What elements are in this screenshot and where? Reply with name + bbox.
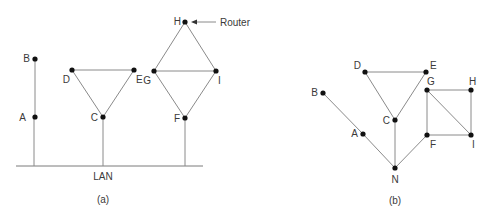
node-label-b-g: G <box>427 76 435 87</box>
node-label-a-g: G <box>143 75 151 86</box>
node-b-a <box>360 131 365 136</box>
node-a-i <box>213 68 218 73</box>
node-label-b-i: I <box>472 139 475 150</box>
panel-b: (b) ABCDEFGHIN <box>311 60 476 206</box>
edge-a-c-e <box>103 70 134 117</box>
edge-a-c-d <box>72 70 103 117</box>
node-b-b <box>320 90 325 95</box>
node-a-c <box>100 114 105 119</box>
node-label-a-b: B <box>23 53 30 64</box>
node-b-d <box>362 69 367 74</box>
node-label-b-d: D <box>354 60 361 71</box>
node-label-b-c: C <box>383 115 390 126</box>
node-label-a-d: D <box>63 74 70 85</box>
node-b-e <box>423 69 428 74</box>
lan-label: LAN <box>93 171 112 182</box>
node-label-b-n: N <box>391 174 398 185</box>
node-label-a-e: E <box>136 74 143 85</box>
panel-a: Router LAN (a) ABCDEFGHI <box>16 16 251 205</box>
node-a-b <box>32 56 37 61</box>
node-a-a <box>32 114 37 119</box>
node-b-f <box>424 132 429 137</box>
edge-b-a-n <box>363 134 395 168</box>
node-label-a-f: F <box>174 113 180 124</box>
node-label-b-e: E <box>430 60 437 71</box>
edge-a-f-g <box>154 71 185 118</box>
router-label: Router <box>220 17 251 28</box>
node-label-b-b: B <box>311 87 318 98</box>
edge-a-f-i <box>185 71 216 118</box>
node-label-b-a: A <box>351 128 358 139</box>
node-a-g <box>151 68 156 73</box>
caption-b: (b) <box>389 195 401 206</box>
node-b-c <box>392 117 397 122</box>
node-b-h <box>468 87 473 92</box>
edge-a-g-h <box>154 22 185 71</box>
caption-a: (a) <box>97 194 109 205</box>
node-label-b-h: H <box>469 76 476 87</box>
node-a-d <box>69 67 74 72</box>
node-b-n <box>392 165 397 170</box>
edge-b-c-d <box>365 72 395 120</box>
node-label-a-a: A <box>19 112 26 123</box>
edge-b-f-n <box>395 135 427 168</box>
edge-b-g-i <box>427 90 471 135</box>
router-arrow-head <box>191 20 197 25</box>
network-graph-diagram: Router LAN (a) ABCDEFGHI (b) ABCDEFGHIN <box>0 0 491 220</box>
node-b-i <box>468 132 473 137</box>
node-label-a-h: H <box>174 16 181 27</box>
node-a-f <box>182 115 187 120</box>
edge-a-h-i <box>185 22 216 71</box>
node-label-a-i: I <box>218 75 221 86</box>
edge-b-c-e <box>395 72 426 120</box>
node-b-g <box>424 87 429 92</box>
node-label-a-c: C <box>91 112 98 123</box>
node-a-e <box>131 67 136 72</box>
node-label-b-f: F <box>430 139 436 150</box>
node-a-h <box>182 19 187 24</box>
